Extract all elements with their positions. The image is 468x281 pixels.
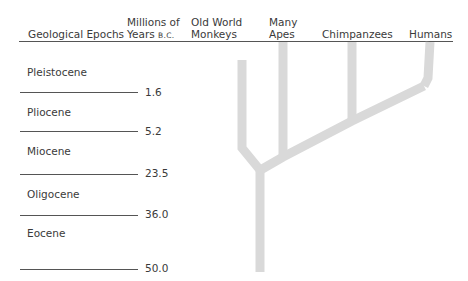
phylogenetic-tree [0,0,468,281]
branch-old-world-monkeys [242,60,260,170]
branch-humans [424,42,430,86]
